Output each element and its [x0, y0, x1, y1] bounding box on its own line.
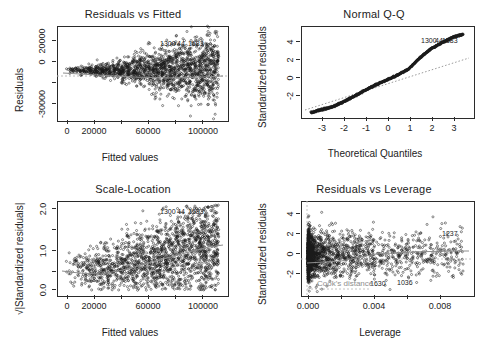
x-tick-label: 3 — [444, 123, 464, 133]
y-tick-label: -30000 — [37, 82, 47, 126]
y-tick-mark — [52, 208, 56, 209]
x-tick-label: -3 — [312, 123, 332, 133]
x-tick-mark — [202, 120, 203, 124]
panel-title: Normal Q-Q — [245, 8, 489, 20]
panel-scale-location: Scale-Location √|Standardized residuals|… — [0, 175, 244, 350]
x-tick-label: 2 — [422, 123, 442, 133]
point-label: 1583 — [188, 208, 204, 215]
x-tick-mark — [175, 295, 176, 299]
x-axis-label: Fitted values — [40, 152, 220, 163]
y-tick-mark — [296, 253, 300, 254]
data-points — [65, 204, 219, 291]
x-tick-mark — [454, 117, 455, 121]
y-tick-mark — [52, 289, 56, 290]
x-tick-mark — [432, 117, 433, 121]
x-tick-label: 0 — [378, 123, 398, 133]
y-tick-mark — [52, 271, 56, 272]
y-tick-mark — [52, 61, 56, 62]
y-tick-mark — [52, 250, 56, 251]
y-tick-mark — [52, 229, 56, 230]
y-tick-mark — [296, 273, 300, 274]
x-tick-mark — [148, 295, 149, 299]
x-tick-label: 60000 — [130, 126, 166, 136]
panel-residuals-vs-fitted: Residuals vs Fitted Residuals Fitted val… — [0, 0, 244, 175]
x-tick-label: -1 — [356, 123, 376, 133]
y-tick-mark — [296, 233, 300, 234]
x-tick-mark — [202, 295, 203, 299]
y-tick-label: 4 — [285, 33, 295, 51]
x-tick-mark — [440, 295, 441, 299]
y-tick-mark — [52, 103, 56, 104]
point-label: 1300 — [160, 40, 176, 47]
x-tick-mark — [67, 120, 68, 124]
x-tick-label: 60000 — [130, 301, 166, 311]
y-tick-label: 2.0 — [38, 196, 48, 222]
point-label: 1300 — [160, 208, 176, 215]
panel-title: Residuals vs Leverage — [245, 183, 489, 195]
x-axis-label: Theoretical Quantiles — [285, 148, 465, 159]
y-tick-mark — [296, 77, 300, 78]
data-points — [310, 33, 464, 114]
y-tick-label: 0 — [285, 245, 295, 263]
x-tick-mark — [67, 295, 68, 299]
x-tick-mark — [410, 117, 411, 121]
y-tick-label: -2 — [285, 84, 295, 108]
plot-area — [57, 201, 227, 295]
scatter-svg — [57, 201, 227, 295]
x-tick-label: 1 — [400, 123, 420, 133]
x-tick-label: 0.004 — [356, 301, 392, 311]
point-label: 1036 — [397, 279, 413, 286]
x-tick-mark — [374, 295, 375, 299]
y-tick-label: -2 — [285, 262, 295, 286]
x-tick-mark — [148, 120, 149, 124]
y-tick-label: 0 — [37, 52, 47, 72]
panel-title: Residuals vs Fitted — [0, 8, 244, 20]
x-tick-mark — [388, 117, 389, 121]
x-tick-mark — [407, 295, 408, 299]
y-tick-mark — [296, 41, 300, 42]
cooks-distance-annotation: Cook's distance — [317, 279, 373, 288]
x-tick-mark — [121, 120, 122, 124]
y-tick-label: 2 — [285, 225, 295, 243]
point-label: 1583 — [442, 37, 458, 44]
y-tick-label: 1.0 — [38, 238, 48, 264]
y-tick-mark — [296, 95, 300, 96]
x-tick-mark — [94, 120, 95, 124]
y-tick-mark — [296, 59, 300, 60]
x-tick-mark — [121, 295, 122, 299]
x-tick-label: 20000 — [76, 301, 112, 311]
x-tick-mark — [94, 295, 95, 299]
y-tick-label: 0.0 — [38, 277, 48, 303]
diagnostic-plot-grid: Residuals vs Fitted Residuals Fitted val… — [0, 0, 489, 350]
x-tick-label: 0.000 — [290, 301, 326, 311]
y-tick-label: 4 — [285, 205, 295, 223]
x-tick-label: 0.008 — [422, 301, 458, 311]
x-tick-mark — [175, 120, 176, 124]
y-tick-mark — [52, 82, 56, 83]
x-tick-label: 20000 — [76, 126, 112, 136]
y-axis-label: Residuals — [14, 68, 25, 112]
y-axis-label: √|Standardized residuals| — [14, 203, 25, 315]
x-tick-mark — [308, 295, 309, 299]
point-label: 44 — [177, 208, 185, 215]
x-tick-label: 100000 — [182, 126, 224, 136]
qq-reference-line — [305, 58, 469, 110]
point-label: 44 — [177, 40, 185, 47]
point-label: 1237 — [442, 230, 458, 237]
x-tick-label: 100000 — [182, 301, 224, 311]
x-axis-label: Fitted values — [40, 327, 220, 338]
y-axis-label: Standardized residuals — [257, 203, 268, 305]
y-axis-label: Standardized residuals — [257, 26, 268, 128]
panel-title: Scale-Location — [0, 183, 244, 195]
panel-normal-qq: Normal Q-Q Standardized residuals Theore… — [245, 0, 489, 175]
panel-residuals-vs-leverage: Residuals vs Leverage Standardized resid… — [245, 175, 489, 350]
x-tick-label: -2 — [334, 123, 354, 133]
y-tick-label: 2 — [285, 51, 295, 69]
x-tick-mark — [322, 117, 323, 121]
x-tick-mark — [341, 295, 342, 299]
y-tick-mark — [52, 40, 56, 41]
x-tick-mark — [344, 117, 345, 121]
point-label: 1583 — [188, 40, 204, 47]
x-axis-label: Leverage — [290, 327, 470, 338]
x-tick-mark — [366, 117, 367, 121]
